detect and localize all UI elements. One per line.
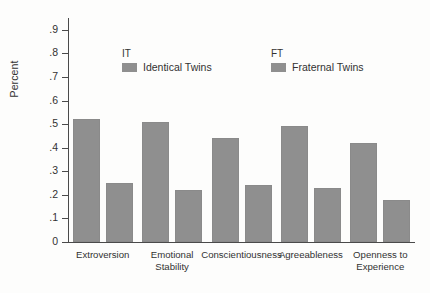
bar-it-2	[212, 138, 239, 242]
legend-label-it: Identical Twins	[143, 61, 212, 73]
legend-swatch-icon-ft	[271, 63, 286, 72]
bar-ft-0	[106, 183, 133, 242]
bar-ft-2	[245, 185, 272, 242]
y-axis-tick-label: .9	[34, 23, 58, 35]
y-axis-tick-label: .7	[34, 70, 58, 82]
bar-ft-4	[383, 200, 410, 242]
x-axis-line	[68, 242, 415, 243]
y-axis-tick-label: .8	[34, 46, 58, 58]
legend-key-ft: FT	[271, 48, 364, 59]
bar-chart: Percent 0.1.2.3.4.5.6.7.8.9 Extroversion…	[0, 0, 430, 293]
y-axis-tick	[62, 242, 69, 243]
y-axis-tick-label: .5	[34, 117, 58, 129]
legend-row-it: Identical Twins	[122, 61, 212, 73]
bar-it-0	[73, 119, 100, 242]
y-axis-tick-label: 0	[34, 235, 58, 247]
y-axis-tick-label: .2	[34, 188, 58, 200]
legend-key-it: IT	[122, 48, 212, 59]
y-axis-tick-label: .3	[34, 164, 58, 176]
bar-it-1	[142, 122, 169, 242]
y-axis-tick-label: .6	[34, 94, 58, 106]
bar-it-3	[281, 126, 308, 242]
bar-ft-1	[175, 190, 202, 242]
x-axis-label: Openness to Experience	[336, 249, 425, 272]
y-axis-title: Percent	[8, 44, 26, 114]
legend-row-ft: Fraternal Twins	[271, 61, 364, 73]
y-axis-tick-label: .4	[34, 141, 58, 153]
y-axis-tick-label: .1	[34, 211, 58, 223]
legend-item-fraternal-twins: FT Fraternal Twins	[271, 48, 364, 73]
bar-it-4	[350, 143, 377, 242]
bar-ft-3	[314, 188, 341, 242]
legend-swatch-icon-it	[122, 63, 137, 72]
legend-item-identical-twins: IT Identical Twins	[122, 48, 212, 73]
legend-label-ft: Fraternal Twins	[292, 61, 364, 73]
